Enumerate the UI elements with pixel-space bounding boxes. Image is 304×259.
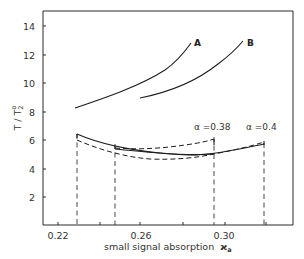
y-tick-14: 14 xyxy=(23,21,35,32)
chart: 14 12 10 8 6 4 2 0.22 0.26 0.30 small si… xyxy=(0,0,304,259)
y-tick-8: 8 xyxy=(29,107,35,118)
alpha-04-label: α =0.4 xyxy=(246,122,277,132)
y-tick-4: 4 xyxy=(29,164,35,175)
alpha-04-dashed-curve xyxy=(77,140,264,159)
curve-a-label: A xyxy=(194,38,201,48)
y-tick-labels: 14 12 10 8 6 4 2 xyxy=(23,21,35,203)
x-tick-labels: 0.22 0.26 0.30 xyxy=(47,230,234,241)
curve-a xyxy=(75,43,191,108)
alpha-038-label: α =0.38 xyxy=(194,122,231,132)
x-axis-label: small signal absorptionϰa xyxy=(104,241,232,254)
x-tick-030: 0.30 xyxy=(213,230,234,241)
vertical-markers xyxy=(77,134,264,225)
x-tick-026: 0.26 xyxy=(130,230,151,241)
axes-frame xyxy=(43,11,293,225)
alpha-04-solid-curve xyxy=(115,144,264,155)
y-tick-12: 12 xyxy=(23,50,35,61)
y-tick-2: 2 xyxy=(29,192,35,203)
x-tick-022: 0.22 xyxy=(47,230,68,241)
curve-b-label: B xyxy=(247,38,254,48)
y-tick-10: 10 xyxy=(23,78,35,89)
y-tick-6: 6 xyxy=(29,135,35,146)
alpha-038-dashed-curve xyxy=(115,139,214,149)
y-axis-label: T / T2o xyxy=(10,106,25,132)
curve-b xyxy=(140,41,243,98)
